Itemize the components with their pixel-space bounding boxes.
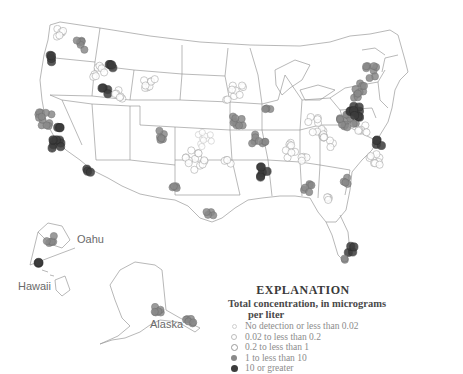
site-marker [372,136,380,144]
legend-class-label: 0.2 to less than 1 [245,342,309,352]
site-marker [56,32,63,39]
open-circle-icon [231,344,238,351]
site-marker [341,255,348,262]
site-marker [228,86,235,93]
site-marker [156,127,163,134]
site-marker [354,90,361,97]
site-marker [370,62,377,69]
site-marker [151,308,158,315]
site-marker [188,147,195,154]
legend-subtitle-units: per liter [228,309,458,321]
legend-class-1: No detection or less than 0.02 [228,321,458,332]
map-legend: EXPLANATION Total concentration, in micr… [228,283,458,374]
legend-class-5: 10 or greater [228,363,458,374]
legend-class-3: 0.2 to less than 1 [228,342,458,353]
site-marker [288,149,295,156]
site-marker [190,319,197,326]
site-marker [327,143,334,150]
site-marker [203,208,210,215]
site-marker [309,129,316,136]
black-filled-circle-icon [231,365,238,372]
site-marker [200,137,206,143]
site-marker [86,168,94,176]
legend-class-2: 0.02 to less than 0.2 [228,332,458,343]
alaska-label: Alaska [150,318,183,330]
site-marker [366,74,373,81]
site-marker [325,196,332,203]
site-marker [288,142,295,149]
site-marker [236,91,243,98]
legend-class-label: No detection or less than 0.02 [245,321,358,331]
site-marker [360,82,367,89]
site-marker [255,137,262,144]
site-marker [350,243,358,251]
site-marker [116,94,123,101]
site-marker [363,129,370,136]
site-marker [262,138,269,145]
site-marker [191,166,198,173]
state-boundaries [40,22,408,262]
site-marker [199,129,205,135]
site-marker [342,179,349,186]
site-marker [201,157,208,164]
site-marker [257,163,265,171]
site-marker [336,115,343,122]
site-marker [104,90,112,98]
site-marker [208,138,214,144]
site-marker [47,52,55,60]
site-marker [73,37,80,44]
site-marker [49,136,57,144]
site-marker [56,124,64,132]
gray-filled-circle-icon [231,355,237,361]
site-marker [224,156,231,163]
site-marker [195,150,202,157]
site-marker [367,153,374,160]
site-markers [34,25,385,327]
site-marker [262,106,269,113]
site-marker [314,116,321,123]
legend-class-label: 1 to less than 10 [245,353,307,363]
site-marker [43,237,50,244]
site-marker [320,134,327,141]
site-marker [101,69,108,76]
site-marker [298,157,305,164]
legend-class-4: 1 to less than 10 [228,353,458,364]
legend-class-label: 10 or greater [245,363,294,373]
site-marker [351,111,359,119]
site-marker [363,63,370,70]
site-marker [108,61,116,69]
site-marker [158,135,165,142]
site-marker [48,144,56,152]
open-circle-small-icon [231,334,237,340]
site-marker [142,82,149,89]
site-marker [305,118,312,125]
legend-subtitle: Total concentration, in micrograms [228,298,458,309]
site-marker [81,46,88,53]
site-marker [38,113,45,120]
site-marker [355,127,362,134]
site-marker [50,232,57,239]
site-marker [350,120,357,127]
site-marker [35,258,43,266]
site-marker [151,76,158,83]
site-marker [256,173,264,181]
site-marker [238,82,245,89]
oahu-label: Oahu [77,233,104,245]
hawaii-label: Hawaii [18,280,51,292]
site-marker [235,122,242,129]
site-marker [306,188,313,195]
site-marker [207,132,213,138]
site-marker [199,143,205,149]
alaska-inset [100,262,200,344]
site-marker [376,161,383,168]
site-marker [224,96,231,103]
legend-class-label: 0.02 to less than 0.2 [245,332,321,342]
site-marker [185,160,192,167]
legend-title: EXPLANATION [228,283,378,298]
site-marker [92,73,99,80]
open-circle-tiny-icon [232,324,237,329]
site-marker [232,115,239,122]
site-marker [170,183,177,190]
